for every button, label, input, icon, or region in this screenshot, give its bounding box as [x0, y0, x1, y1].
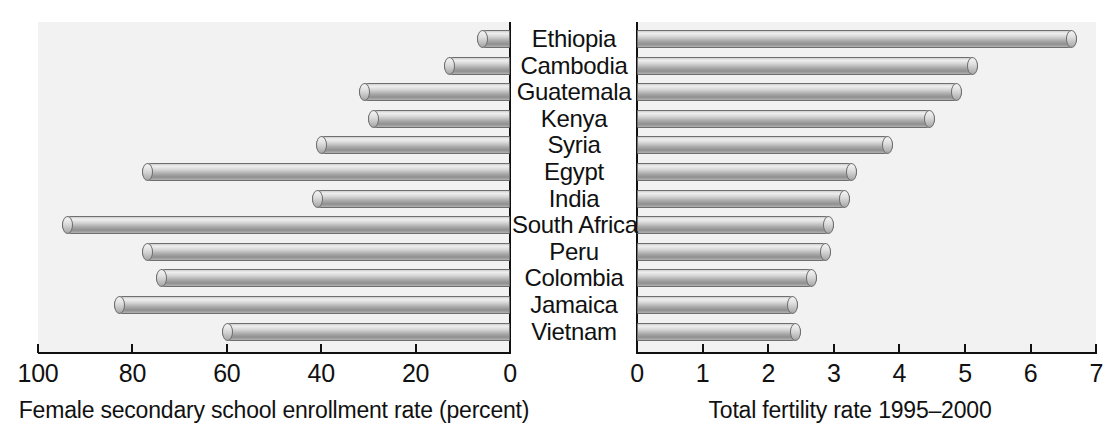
bar-end-cap-icon	[156, 269, 167, 287]
axis-tick	[833, 344, 835, 353]
axis-tick	[509, 344, 511, 353]
bar-left-india	[312, 190, 510, 208]
bar-end-cap-icon	[951, 83, 962, 101]
bar-right-syria	[637, 136, 893, 154]
category-label-cambodia: Cambodia	[512, 54, 636, 78]
bar-left-syria	[316, 136, 510, 154]
axis-tick	[636, 344, 638, 353]
category-label-peru: Peru	[512, 240, 636, 264]
value-axis-right	[636, 352, 1097, 354]
axis-tick-label: 60	[197, 358, 257, 388]
bar-right-guatemala	[637, 83, 962, 101]
bar-right-kenya	[637, 110, 935, 128]
bar-end-cap-icon	[62, 216, 73, 234]
category-label-south-africa: South Africa	[512, 213, 636, 237]
bar-end-cap-icon	[312, 190, 323, 208]
bar-right-vietnam	[637, 323, 801, 341]
bar-end-cap-icon	[368, 110, 379, 128]
bar-right-ethiopia	[637, 30, 1077, 48]
axis-tick-label: 5	[935, 358, 995, 388]
bar-left-peru	[142, 243, 510, 261]
bar-right-colombia	[637, 269, 817, 287]
bar-end-cap-icon	[882, 136, 893, 154]
category-label-colombia: Colombia	[512, 266, 636, 290]
axis-tick	[415, 344, 417, 353]
axis-tick-label: 4	[869, 358, 929, 388]
bar-left-vietnam	[222, 323, 510, 341]
bar-end-cap-icon	[839, 190, 850, 208]
axis-tick	[320, 344, 322, 353]
bar-end-cap-icon	[790, 323, 801, 341]
axis-tick	[37, 344, 39, 353]
axis-tick	[1095, 344, 1097, 353]
axis-tick-label: 2	[738, 358, 798, 388]
bar-end-cap-icon	[142, 243, 153, 261]
bar-left-cambodia	[444, 57, 510, 75]
value-axis-left	[38, 352, 511, 354]
axis-tick	[226, 344, 228, 353]
axis-tick	[1030, 344, 1032, 353]
axis-tick-label: 6	[1001, 358, 1061, 388]
axis-tick-label: 0	[480, 358, 540, 388]
axis-tick-label: 1	[673, 358, 733, 388]
bar-end-cap-icon	[820, 243, 831, 261]
axis-tick-label: 100	[8, 358, 68, 388]
bar-end-cap-icon	[222, 323, 233, 341]
axis-tick	[131, 344, 133, 353]
bar-end-cap-icon	[477, 30, 488, 48]
category-label-jamaica: Jamaica	[512, 293, 636, 317]
category-label-india: India	[512, 187, 636, 211]
bar-right-egypt	[637, 163, 857, 181]
bar-left-egypt	[142, 163, 510, 181]
axis-tick-label: 7	[1066, 358, 1118, 388]
bar-left-guatemala	[359, 83, 510, 101]
bar-end-cap-icon	[444, 57, 455, 75]
bar-end-cap-icon	[846, 163, 857, 181]
chart-figure: 100806040200 01234567 EthiopiaCambodiaGu…	[0, 0, 1118, 441]
category-label-syria: Syria	[512, 133, 636, 157]
axis-tick-label: 0	[607, 358, 667, 388]
category-label-kenya: Kenya	[512, 107, 636, 131]
bar-right-south-africa	[637, 216, 834, 234]
bar-end-cap-icon	[823, 216, 834, 234]
axis-tick	[898, 344, 900, 353]
bar-left-colombia	[156, 269, 510, 287]
axis-tick	[767, 344, 769, 353]
axis-title-right: Total fertility rate 1995–2000	[600, 396, 1100, 424]
bar-left-ethiopia	[477, 30, 510, 48]
axis-tick-label: 3	[804, 358, 864, 388]
category-label-vietnam: Vietnam	[512, 320, 636, 344]
bar-end-cap-icon	[787, 296, 798, 314]
bar-end-cap-icon	[359, 83, 370, 101]
bar-right-cambodia	[637, 57, 978, 75]
axis-tick	[964, 344, 966, 353]
bar-end-cap-icon	[114, 296, 125, 314]
bar-right-peru	[637, 243, 831, 261]
axis-tick-label: 20	[386, 358, 446, 388]
bar-end-cap-icon	[316, 136, 327, 154]
bar-right-jamaica	[637, 296, 798, 314]
category-label-guatemala: Guatemala	[512, 80, 636, 104]
axis-tick-label: 40	[291, 358, 351, 388]
bar-left-kenya	[368, 110, 510, 128]
bar-end-cap-icon	[1066, 30, 1077, 48]
category-label-egypt: Egypt	[512, 160, 636, 184]
axis-title-left: Female secondary school enrollment rate …	[0, 396, 548, 424]
bar-end-cap-icon	[967, 57, 978, 75]
bar-left-south-africa	[62, 216, 510, 234]
bar-right-india	[637, 190, 850, 208]
bar-end-cap-icon	[142, 163, 153, 181]
category-label-ethiopia: Ethiopia	[512, 27, 636, 51]
axis-tick	[702, 344, 704, 353]
axis-tick-label: 80	[102, 358, 162, 388]
bar-left-jamaica	[114, 296, 510, 314]
